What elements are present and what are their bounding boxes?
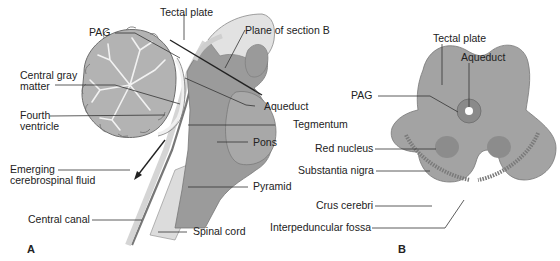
label-aqueduct-b: Aqueduct xyxy=(461,52,505,63)
label-substantia-nigra: Substantia nigra xyxy=(298,165,374,176)
label-pag-b: PAG xyxy=(351,90,372,101)
label-central-gray-line2: matter xyxy=(20,81,50,92)
label-plane-of-section: Plane of section B xyxy=(245,25,330,36)
label-red-nucleus: Red nucleus xyxy=(315,143,373,154)
label-tegmentum: Tegmentum xyxy=(293,119,348,130)
panel-b-letter: B xyxy=(398,243,406,255)
label-pons: Pons xyxy=(253,137,277,148)
red-nucleus-right xyxy=(487,136,511,158)
label-fourth-ventricle-line2: ventricle xyxy=(20,121,59,132)
label-pag-a: PAG xyxy=(89,27,110,38)
label-emerging-line2: cerebrospinal fluid xyxy=(10,175,95,186)
cerebellum xyxy=(82,27,176,138)
label-aqueduct-a: Aqueduct xyxy=(264,101,308,112)
label-interpeduncular-fossa: Interpeduncular fossa xyxy=(270,222,371,233)
red-nucleus-left xyxy=(435,136,459,158)
label-spinal-cord: Spinal cord xyxy=(193,226,246,237)
panel-a-letter: A xyxy=(27,243,35,255)
label-tectal-plate-b: Tectal plate xyxy=(433,33,486,44)
aqueduct-hole xyxy=(465,107,473,115)
label-pyramid: Pyramid xyxy=(253,181,292,192)
label-tectal-plate-a: Tectal plate xyxy=(160,7,213,18)
panel-a-illustration xyxy=(82,14,276,245)
label-central-canal: Central canal xyxy=(28,214,90,225)
panel-b-illustration xyxy=(391,45,556,182)
label-crus-cerebri: Crus cerebri xyxy=(316,200,373,211)
